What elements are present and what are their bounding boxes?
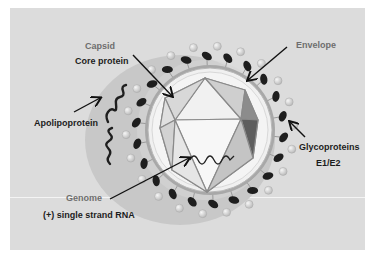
apolipoprotein-label: Apolipoprotein [34, 118, 98, 128]
genome-label: Genome [66, 193, 102, 203]
envelope-arrow [248, 47, 287, 80]
capsid-label: Capsid [85, 41, 115, 51]
genome-sublabel: (+) single strand RNA [43, 210, 135, 220]
glycoproteins-label: Glycoproteins [299, 142, 360, 152]
core-protein-label: Core protein [75, 56, 129, 66]
glycoproteins-sublabel: E1/E2 [316, 158, 341, 168]
virus-diagram [0, 0, 377, 260]
envelope-label: Envelope [296, 40, 336, 50]
